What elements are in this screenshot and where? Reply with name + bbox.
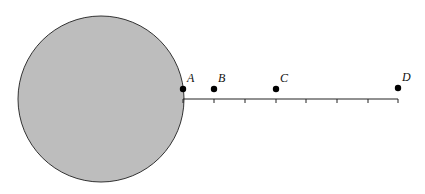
point-d-dot bbox=[395, 85, 401, 91]
point-c-dot bbox=[273, 86, 279, 92]
labeled-points: ABCD bbox=[180, 70, 411, 92]
point-c-label: C bbox=[280, 71, 289, 85]
point-b-label: B bbox=[218, 71, 226, 85]
point-d-label: D bbox=[401, 70, 411, 84]
point-a-label: A bbox=[186, 71, 195, 85]
tick-marks bbox=[183, 99, 398, 103]
point-b-dot bbox=[211, 86, 217, 92]
circle-line-diagram: ABCD bbox=[0, 0, 425, 194]
shaded-circle bbox=[18, 16, 184, 182]
point-a-dot bbox=[180, 86, 186, 92]
